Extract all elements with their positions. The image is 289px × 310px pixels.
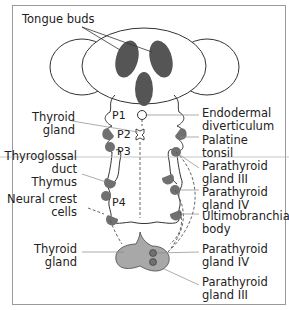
endodermal-diverticulum <box>138 111 147 120</box>
pouch-label-p3: P3 <box>117 146 131 158</box>
label-endodermal-diverticulum: Endodermal diverticulum <box>202 107 274 133</box>
label-palatine-tonsil: Palatine tonsil <box>202 134 248 160</box>
right-ultimobranchial <box>170 210 182 220</box>
label-thyroid-gland-upper: Thyroid gland <box>32 111 75 137</box>
label-parathyroid-iii-upper: Parathyroid gland III <box>202 160 268 186</box>
foramen-cecum <box>136 129 144 140</box>
left-gland-p3 <box>105 142 115 152</box>
right-gland-p3-bottom <box>162 174 174 184</box>
pouch-label-p2: P2 <box>117 129 131 141</box>
left-ultimobranchial <box>106 215 118 225</box>
tongue-bud-center <box>135 72 153 106</box>
label-neural-crest-cells: Neural crest cells <box>7 193 77 219</box>
pouch-label-p1: P1 <box>112 110 126 122</box>
left-gland-p2 <box>102 128 114 140</box>
right-pharynx-wall <box>156 95 184 223</box>
label-ultimobranchial-body: Ultimobranchial body <box>202 210 289 236</box>
right-palatine-tonsil <box>175 128 187 140</box>
label-thyroglossal-duct: Thyroglossal duct <box>5 150 77 176</box>
label-parathyroid-iii-lower: Parathyroid gland III <box>202 276 268 302</box>
label-thymus: Thymus <box>31 176 77 189</box>
thyroid-gland <box>116 232 169 271</box>
label-thyroid-gland-lower: Thyroid gland <box>34 243 77 269</box>
label-parathyroid-iv-lower: Parathyroid gland IV <box>202 243 268 269</box>
pouch-label-p4: P4 <box>112 197 126 209</box>
left-gland-p4 <box>101 191 111 201</box>
tongue-buds-label: Tongue buds <box>22 13 95 26</box>
thyroid-parathyroid-iv <box>150 250 157 257</box>
thyroid-parathyroid-iii <box>150 259 157 266</box>
left-thymus <box>104 178 116 188</box>
